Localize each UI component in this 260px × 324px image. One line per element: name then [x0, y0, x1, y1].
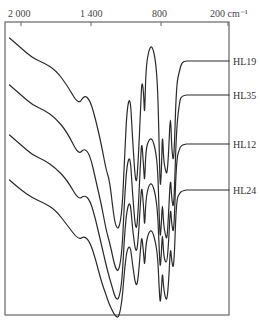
ir-spectrum-chart: 2 000 1 400 800 200 cm⁻¹ HL19 HL35 HL12 … [0, 0, 260, 324]
spectrum-curve-hl19 [10, 38, 230, 228]
x-tick-label-200: 200 cm⁻¹ [210, 8, 248, 19]
spectrum-curves [10, 38, 230, 317]
x-tick-label-800: 800 [152, 8, 167, 19]
spectrum-curve-hl35 [10, 85, 230, 270]
series-label-hl12: HL12 [233, 139, 256, 150]
x-tick-label-1400: 1 400 [80, 8, 103, 19]
series-label-hl19: HL19 [233, 56, 256, 67]
plot-frame [5, 22, 229, 315]
x-tick-label-2000: 2 000 [8, 8, 31, 19]
spectrum-curve-hl12 [10, 135, 230, 299]
series-label-hl24: HL24 [233, 185, 256, 196]
series-label-hl35: HL35 [233, 90, 256, 101]
